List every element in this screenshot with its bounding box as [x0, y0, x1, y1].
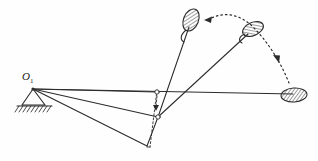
rays-from-pivot	[33, 89, 293, 146]
arrow-midspan	[273, 55, 280, 63]
paddle-position-a	[180, 7, 203, 42]
figure-canvas: O1	[0, 0, 318, 161]
label-pivot-o1-letter: O	[22, 70, 30, 82]
axis-nodes	[155, 90, 160, 119]
mechanism-diagram	[0, 0, 318, 161]
pivot-point	[31, 87, 34, 90]
label-pivot-o1: O1	[22, 70, 33, 85]
label-pivot-o1-subscript: 1	[30, 77, 34, 85]
ray-to-node-upper	[33, 89, 157, 92]
fixed-pivot-ground	[15, 87, 52, 112]
ray-to-node-lower	[33, 89, 147, 146]
connector-links	[147, 27, 248, 146]
paddle-position-c	[281, 87, 308, 103]
paddle-c-head	[281, 87, 308, 103]
node-mid	[156, 115, 160, 119]
paddle-b-head	[240, 19, 265, 40]
paddle-position-b	[240, 19, 266, 43]
link-node-mid-to-paddle-b	[158, 34, 248, 117]
arrow-to-paddle-a	[204, 17, 212, 24]
ground-hatching	[15, 106, 51, 112]
paddle-a-handle	[181, 30, 186, 42]
link-node-lower-to-mid	[147, 117, 158, 146]
link-node-mid-to-paddle-a	[158, 27, 189, 117]
node-upper	[155, 90, 159, 94]
ray-to-node-mid	[33, 89, 158, 117]
paddle-a-head	[180, 7, 203, 34]
